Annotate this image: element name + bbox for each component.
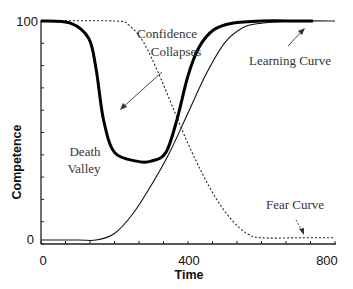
confidence-curve (41, 21, 313, 162)
annotation-learning: Learning Curve (249, 53, 331, 68)
x-tick-400: 400 (178, 253, 200, 268)
annotation-death-line2: Valley (67, 161, 101, 176)
x-tick-0: 0 (39, 253, 46, 268)
chart-figure: 100 0 0 400 800 Time Competence Confiden… (0, 0, 353, 289)
y-axis-title: Competence (10, 124, 24, 199)
confidence-arrow-icon (122, 72, 162, 108)
annotation-death-line1: Death (69, 144, 101, 159)
fear-arrowhead-icon (299, 228, 304, 235)
y-tick-100: 100 (16, 14, 38, 29)
y-tick-0: 0 (27, 232, 34, 247)
annotation-confidence-line2: Collapses (151, 44, 202, 59)
x-tick-800: 800 (316, 253, 338, 268)
chart-svg: 100 0 0 400 800 Time Competence Confiden… (0, 0, 353, 289)
annotation-confidence-line1: Confidence (137, 26, 197, 41)
x-axis-title: Time (175, 268, 204, 282)
annotation-fear: Fear Curve (266, 197, 324, 212)
